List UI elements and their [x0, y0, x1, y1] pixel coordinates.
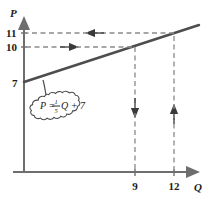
axes-group [13, 18, 198, 172]
equation-rhs: Q + 7 [61, 100, 86, 111]
y-tick-label-11: 11 [6, 27, 16, 39]
y-tick-label-7: 7 [12, 77, 18, 89]
supply-curve-figure: P Q 11 10 7 9 12 [0, 0, 209, 201]
x-tick-label-12: 12 [169, 180, 181, 192]
p-axis-label: P [10, 7, 17, 19]
x-tick-label-9: 9 [132, 180, 138, 192]
equation-lhs: P = [39, 100, 55, 111]
chart-canvas: P Q 11 10 7 9 12 [0, 0, 209, 201]
callout-pointer-line [43, 80, 46, 95]
equation-numerator: 1 [54, 98, 57, 105]
y-tick-label-10: 10 [6, 41, 18, 53]
q-axis-label: Q [194, 181, 202, 193]
